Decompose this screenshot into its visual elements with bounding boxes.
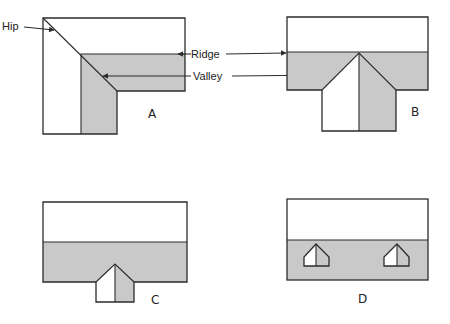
ridge-label: Ridge xyxy=(191,48,220,60)
hip-arrow xyxy=(24,27,54,30)
panel-a-label: A xyxy=(148,107,157,121)
panel-b: B xyxy=(287,17,428,131)
panel-a-shaded-slope xyxy=(81,54,185,134)
panel-b-label: B xyxy=(411,105,419,119)
panel-d: D xyxy=(287,199,428,306)
panel-d-label: D xyxy=(358,292,367,306)
panel-c: C xyxy=(43,202,187,307)
hip-label: Hip xyxy=(2,20,19,32)
panel-c-label: C xyxy=(151,293,159,307)
ridge-arrow-right xyxy=(226,53,286,54)
roof-plan-diagram: A Hip Ridge Valley B C xyxy=(0,0,450,324)
valley-label: Valley xyxy=(193,70,223,82)
